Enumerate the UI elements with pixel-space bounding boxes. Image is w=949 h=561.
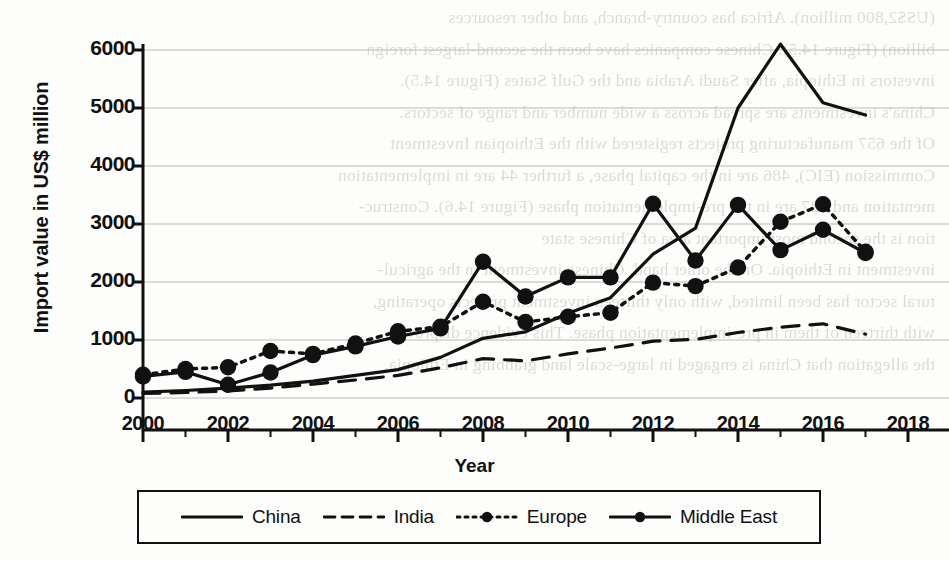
chart-figure: Import value in US$ million 010002000300… — [0, 0, 949, 561]
data-point-marker — [645, 274, 661, 290]
legend-item-label: Middle East — [680, 506, 777, 528]
data-point-marker — [220, 359, 236, 375]
legend-item-europe[interactable]: Europe — [456, 506, 587, 528]
data-point-marker — [475, 294, 491, 310]
legend-item-label: China — [252, 506, 301, 528]
data-point-marker — [602, 305, 618, 321]
x-tick-label: 2002 — [193, 412, 263, 435]
legend-item-india[interactable]: India — [323, 506, 434, 528]
legend-item-china[interactable]: China — [181, 506, 301, 528]
dashed-line-icon — [323, 510, 385, 524]
data-point-marker — [772, 242, 788, 258]
data-point-marker — [262, 343, 278, 359]
x-tick-label: 2010 — [533, 412, 603, 435]
data-point-marker — [390, 328, 406, 344]
data-point-marker — [135, 368, 151, 384]
data-point-marker — [560, 309, 576, 325]
data-point-marker — [305, 347, 321, 363]
dotted-marker-line-icon — [456, 510, 518, 524]
x-tick-label: 2018 — [873, 412, 943, 435]
x-tick-label: 2008 — [448, 412, 518, 435]
legend-item-middle-east[interactable]: Middle East — [609, 506, 777, 528]
data-point-marker — [432, 320, 448, 336]
data-point-marker — [602, 269, 618, 285]
data-point-marker — [560, 269, 576, 285]
series-middle-east — [135, 196, 874, 393]
x-tick-label: 2014 — [703, 412, 773, 435]
data-point-marker — [815, 196, 831, 212]
x-tick-label: 2016 — [788, 412, 858, 435]
data-point-marker — [645, 196, 661, 212]
data-point-marker — [220, 377, 236, 393]
series-line — [143, 204, 866, 374]
data-point-marker — [262, 364, 278, 380]
chart-legend: ChinaIndiaEuropeMiddle East — [137, 490, 821, 544]
data-point-marker — [730, 259, 746, 275]
x-tick-label: 2012 — [618, 412, 688, 435]
data-point-marker — [347, 338, 363, 354]
data-point-marker — [687, 252, 703, 268]
solid-marker-line-icon — [609, 510, 671, 524]
data-point-marker — [687, 278, 703, 294]
x-tick-label: 2004 — [278, 412, 348, 435]
data-point-marker — [857, 245, 873, 261]
data-point-marker — [475, 254, 491, 270]
data-point-marker — [730, 197, 746, 213]
data-point-marker — [177, 364, 193, 380]
legend-item-label: Europe — [527, 506, 587, 528]
legend-item-label: India — [394, 506, 434, 528]
data-point-marker — [517, 288, 533, 304]
solid-line-icon — [181, 510, 243, 524]
data-point-marker — [517, 314, 533, 330]
data-point-marker — [772, 214, 788, 230]
data-point-marker — [815, 222, 831, 238]
x-axis-title: Year — [0, 455, 949, 477]
x-tick-label: 2000 — [108, 412, 178, 435]
x-tick-label: 2006 — [363, 412, 433, 435]
